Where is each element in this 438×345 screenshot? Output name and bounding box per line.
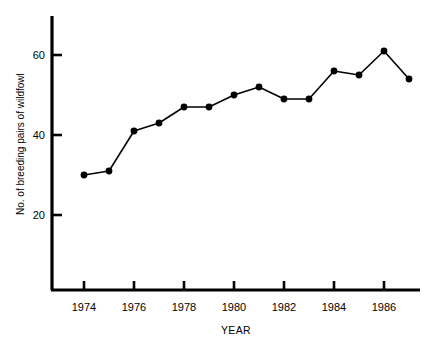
data-point-marker [156,120,163,127]
chart-background [0,0,438,345]
data-point-marker [331,68,338,75]
data-point-marker [81,172,88,179]
data-point-marker [131,128,138,135]
x-tick-label: 1976 [122,301,146,313]
x-axis-title: YEAR [221,324,251,336]
chart-figure: 204060 1974197619781980198219841986 No. … [0,0,438,345]
x-tick-label: 1974 [72,301,96,313]
y-tick-label: 40 [33,129,45,141]
data-point-marker [206,104,213,111]
data-point-marker [231,92,238,99]
x-tick-label: 1986 [372,301,396,313]
line-chart: 204060 1974197619781980198219841986 No. … [0,0,438,345]
x-tick-label: 1982 [272,301,296,313]
data-point-marker [106,168,113,175]
x-tick-label: 1978 [172,301,196,313]
data-point-marker [381,48,388,55]
data-point-marker [356,72,363,79]
data-point-marker [256,84,263,91]
y-tick-label: 20 [33,209,45,221]
data-point-marker [306,96,313,103]
data-point-marker [406,76,413,83]
x-tick-label: 1984 [322,301,346,313]
data-point-marker [181,104,188,111]
y-axis-title: No. of breeding pairs of wildfowl [15,73,26,215]
x-tick-label: 1980 [222,301,246,313]
y-tick-label: 60 [33,49,45,61]
data-point-marker [281,96,288,103]
